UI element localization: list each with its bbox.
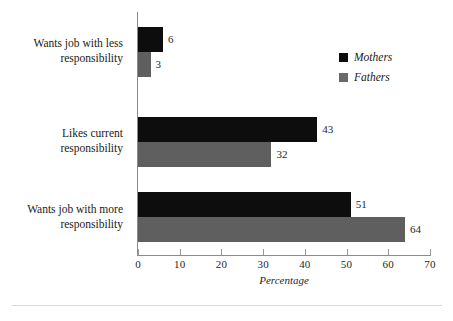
- bar-value-label: 6: [168, 33, 174, 45]
- legend-swatch-icon-fathers: [339, 73, 348, 82]
- x-tick-label: 50: [332, 258, 362, 270]
- bar-fathers: [138, 142, 271, 167]
- bar-chart: 010203040506070 Percentage Wants job wit…: [0, 0, 453, 321]
- x-axis-line: [137, 255, 431, 256]
- x-tick-label: 40: [290, 258, 320, 270]
- legend: Mothers Fathers: [339, 47, 392, 87]
- footer-divider: [12, 305, 442, 306]
- x-tick-mark: [180, 249, 181, 255]
- x-tick-mark: [305, 249, 306, 255]
- bar-mothers: [138, 192, 351, 217]
- bar-value-label: 51: [356, 198, 367, 210]
- bar-mothers: [138, 117, 317, 142]
- category-label-line-2: responsibility: [0, 51, 123, 66]
- category-label-line-1: Likes current: [0, 126, 123, 141]
- category-label-likes-current: Likes current responsibility: [0, 126, 123, 156]
- category-label-line-1: Wants job with more: [0, 202, 123, 217]
- legend-label-mothers: Mothers: [354, 51, 392, 63]
- x-tick-label: 0: [123, 258, 153, 270]
- bar-fathers: [138, 217, 405, 242]
- category-label-line-1: Wants job with less: [0, 36, 123, 51]
- x-tick-mark: [388, 249, 389, 255]
- x-tick-label: 10: [165, 258, 195, 270]
- x-tick-label: 30: [248, 258, 278, 270]
- x-tick-mark: [221, 249, 222, 255]
- x-tick-mark: [138, 249, 139, 255]
- x-tick-label: 20: [206, 258, 236, 270]
- bar-value-label: 43: [322, 123, 333, 135]
- x-tick-label: 70: [415, 258, 445, 270]
- x-axis-title: Percentage: [137, 274, 431, 286]
- category-label-wants-less: Wants job with less responsibility: [0, 36, 123, 66]
- x-tick-label: 60: [373, 258, 403, 270]
- bar-value-label: 3: [156, 58, 162, 70]
- legend-swatch-icon-mothers: [339, 53, 348, 62]
- x-tick-mark: [263, 249, 264, 255]
- category-label-wants-more: Wants job with more responsibility: [0, 202, 123, 232]
- bar-mothers: [138, 27, 163, 52]
- bar-value-label: 64: [410, 223, 421, 235]
- category-label-line-2: responsibility: [0, 217, 123, 232]
- legend-item-mothers: Mothers: [339, 47, 392, 67]
- category-label-line-2: responsibility: [0, 141, 123, 156]
- legend-item-fathers: Fathers: [339, 67, 392, 87]
- bar-fathers: [138, 52, 151, 77]
- x-tick-mark: [430, 249, 431, 255]
- legend-label-fathers: Fathers: [354, 71, 390, 83]
- plot-area: 010203040506070 Percentage Wants job wit…: [0, 0, 453, 321]
- x-tick-mark: [347, 249, 348, 255]
- bar-value-label: 32: [276, 148, 287, 160]
